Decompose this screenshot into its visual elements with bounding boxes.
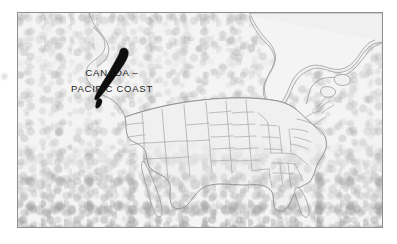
florida-peninsula xyxy=(295,187,309,217)
newfoundland-outline xyxy=(334,75,350,86)
figure-root: CANADA – PACIFIC COAST xyxy=(0,0,397,244)
north-america-outline-map xyxy=(18,13,383,228)
nova-scotia-outline xyxy=(321,87,336,98)
alaska-panhandle-islands xyxy=(86,27,105,89)
map-frame: CANADA – PACIFIC COAST xyxy=(17,12,383,228)
scan-edge-artifact xyxy=(0,72,9,81)
map-land-layer xyxy=(86,13,383,217)
